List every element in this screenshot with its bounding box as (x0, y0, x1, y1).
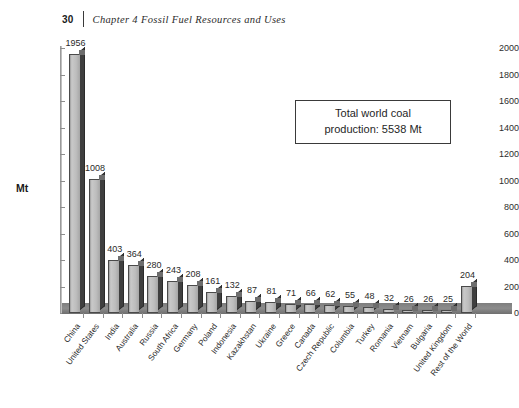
bar (441, 310, 452, 313)
bar-top-face (79, 50, 85, 55)
y-tick-mark (60, 207, 65, 208)
bar (147, 276, 158, 313)
bar (187, 285, 198, 313)
bar-top-face (373, 303, 379, 308)
bar-side-face (100, 173, 105, 310)
bar-top-face (412, 306, 418, 311)
bar-top-face (451, 306, 457, 311)
bar (422, 310, 433, 313)
bar-value-label: 280 (146, 260, 161, 270)
bar (167, 281, 178, 313)
total-production-callout: Total world coal production: 5538 Mt (295, 100, 451, 144)
x-tick-mark (397, 313, 398, 318)
bar-top-face (118, 256, 124, 261)
x-tick-mark (338, 313, 339, 318)
x-tick-mark (475, 313, 476, 318)
y-tick-label: 1800 (475, 70, 519, 80)
bar-value-label: 55 (345, 290, 355, 300)
x-tick-mark (357, 313, 358, 318)
x-tick-mark (279, 313, 280, 318)
y-tick-label: 800 (475, 202, 519, 212)
bar-top-face (138, 261, 144, 266)
x-tick-mark (161, 313, 162, 318)
bar (245, 301, 256, 313)
x-tick-mark (318, 313, 319, 318)
x-tick-mark (103, 313, 104, 318)
bar-top-face (236, 292, 242, 297)
bar (304, 304, 315, 313)
bar-side-face (119, 253, 124, 310)
bar (89, 179, 100, 313)
bar-side-face (80, 47, 85, 310)
bar (226, 296, 237, 313)
bar-top-face (157, 272, 163, 277)
y-axis-title: Mt (16, 182, 28, 194)
y-tick-label: 600 (475, 229, 519, 239)
x-tick-mark (259, 313, 260, 318)
bar-value-label: 26 (404, 294, 414, 304)
callout-line-2: production: 5538 Mt (324, 122, 421, 138)
y-tick-mark (60, 181, 65, 182)
y-tick-mark (60, 260, 65, 261)
y-tick-label: 1600 (475, 96, 519, 106)
bar-top-face (432, 306, 438, 311)
bar-top-face (334, 301, 340, 306)
x-tick-mark (201, 313, 202, 318)
bar-value-label: 364 (127, 249, 142, 259)
y-tick-label: 400 (475, 255, 519, 265)
y-tick-label: 1000 (475, 176, 519, 186)
bar-value-label: 132 (225, 280, 240, 290)
bar-top-face (255, 297, 261, 302)
bar (285, 304, 296, 313)
bar (461, 286, 472, 313)
bar-top-face (197, 281, 203, 286)
x-tick-mark (240, 313, 241, 318)
bar-value-label: 208 (186, 269, 201, 279)
bar-top-face (393, 305, 399, 310)
bar (402, 310, 413, 313)
bar-value-label: 48 (364, 291, 374, 301)
x-tick-mark (83, 313, 84, 318)
coal-production-bar-chart: Mt 0200400600800100012001400160018002000… (0, 0, 519, 408)
x-tick-mark (220, 313, 221, 318)
bar-value-label: 32 (384, 293, 394, 303)
bar (383, 309, 394, 313)
bar-top-face (353, 302, 359, 307)
x-tick-mark (455, 313, 456, 318)
x-tick-mark (122, 313, 123, 318)
bar-value-label: 81 (266, 286, 276, 296)
y-tick-mark (60, 287, 65, 288)
bar (343, 306, 354, 313)
bar-top-face (295, 300, 301, 305)
bar-top-face (275, 298, 281, 303)
bar-value-label: 66 (306, 288, 316, 298)
y-tick-label: 200 (475, 282, 519, 292)
bar-value-label: 26 (423, 294, 433, 304)
bar-value-label: 1008 (85, 163, 105, 173)
y-tick-label: 1200 (475, 149, 519, 159)
bar (265, 302, 276, 313)
x-tick-mark (416, 313, 417, 318)
y-tick-label: 1400 (475, 123, 519, 133)
bar (128, 265, 139, 313)
bar-value-label: 25 (443, 294, 453, 304)
bar (108, 260, 119, 313)
x-tick-mark (142, 313, 143, 318)
x-tick-mark (181, 313, 182, 318)
y-tick-mark (60, 234, 65, 235)
bar-value-label: 243 (166, 265, 181, 275)
bar-value-label: 161 (205, 276, 220, 286)
bar-value-label: 87 (247, 285, 257, 295)
bar (69, 54, 80, 313)
bar-top-face (471, 282, 477, 287)
bar (363, 307, 374, 313)
y-tick-mark (60, 75, 65, 76)
x-tick-mark (299, 313, 300, 318)
bar-value-label: 204 (460, 270, 475, 280)
y-tick-label: 2000 (475, 43, 519, 53)
x-tick-mark (436, 313, 437, 318)
callout-line-1: Total world coal (335, 106, 411, 122)
bar-value-label: 403 (107, 244, 122, 254)
bar-value-label: 1956 (65, 38, 85, 48)
y-tick-mark (60, 48, 65, 49)
